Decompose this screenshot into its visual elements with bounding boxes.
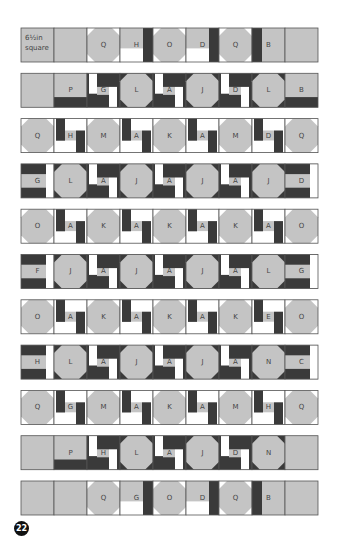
svg-text:Q: Q [101,41,107,49]
corner-size-label-line2: square [25,43,49,53]
quilt-block: M [87,119,120,153]
quilt-block: Q [21,390,54,424]
quilt-block: J [186,255,219,289]
quilt-block: B [285,73,318,107]
svg-text:A: A [68,313,73,321]
svg-text:Q: Q [35,403,41,411]
quilt-block: A [153,164,186,198]
quilt-block: A [186,390,219,424]
quilt-block: A [120,300,153,334]
quilt-block [21,436,54,470]
quilt-block: G [87,73,120,107]
svg-text:J: J [200,177,203,185]
quilt-block: Q [285,390,318,424]
svg-text:A: A [200,222,205,230]
quilt-block: K [153,390,186,424]
svg-text:J: J [200,267,203,275]
quilt-block: P [54,73,87,107]
svg-text:K: K [101,222,106,230]
svg-text:A: A [200,132,205,140]
quilt-block: A [120,390,153,424]
quilt-row: OAKAKAKAO [21,209,318,243]
quilt-block [54,28,87,62]
svg-text:J: J [134,267,137,275]
svg-text:Q: Q [101,494,107,502]
svg-text:K: K [101,313,106,321]
svg-text:G: G [299,267,304,275]
svg-text:Q: Q [233,41,239,49]
quilt-block: K [219,300,252,334]
quilt-diagram: QHODQBPGLAJDLBQHMAKAMDQGLAJAJAJDOAKAKAKA… [0,0,339,558]
quilt-block: A [153,345,186,379]
svg-text:A: A [200,313,205,321]
svg-text:D: D [299,177,304,185]
quilt-row: FJAJAJALG [21,255,318,289]
svg-text:A: A [233,358,238,366]
quilt-block: O [21,209,54,243]
svg-text:A: A [167,267,172,275]
quilt-block: A [87,345,120,379]
svg-text:J: J [200,449,203,457]
quilt-block: O [285,300,318,334]
svg-text:Q: Q [233,494,239,502]
quilt-block: O [21,300,54,334]
svg-text:B: B [299,86,304,94]
svg-text:K: K [233,313,238,321]
quilt-block: C [285,345,318,379]
quilt-block: K [153,300,186,334]
svg-text:D: D [266,132,271,140]
svg-text:H: H [134,41,139,49]
quilt-block: A [120,209,153,243]
quilt-block: J [252,164,285,198]
svg-text:D: D [233,86,238,94]
quilt-block: A [153,436,186,470]
svg-text:H: H [266,403,271,411]
quilt-block: M [219,390,252,424]
quilt-block: A [219,164,252,198]
quilt-block: Q [285,119,318,153]
quilt-block: A [219,255,252,289]
quilt-block: A [186,300,219,334]
quilt-block: J [54,255,87,289]
quilt-block: J [186,73,219,107]
svg-text:A: A [200,403,205,411]
quilt-block: N [252,436,285,470]
corner-size-label-line1: 6½in [25,33,49,43]
quilt-block [21,481,54,515]
svg-text:G: G [35,177,40,185]
quilt-block: J [120,345,153,379]
quilt-block: H [87,436,120,470]
quilt-block: J [120,164,153,198]
quilt-row: PGLAJDLB [21,73,318,107]
svg-text:E: E [266,313,270,321]
svg-text:A: A [167,86,172,94]
svg-text:Q: Q [299,403,305,411]
quilt-block [285,28,318,62]
svg-text:L: L [267,86,271,94]
quilt-row: QGMAKAMHQ [21,390,318,424]
quilt-block: H [54,119,87,153]
svg-text:A: A [134,132,139,140]
corner-size-label: 6½in square [25,33,49,53]
svg-text:D: D [200,41,205,49]
svg-text:H: H [68,132,73,140]
svg-text:G: G [68,403,73,411]
quilt-block: J [186,436,219,470]
quilt-block: K [153,209,186,243]
svg-text:K: K [233,222,238,230]
quilt-block: Q [219,481,252,515]
quilt-row: OAKAKAKEO [21,300,318,334]
quilt-block: L [252,255,285,289]
svg-text:O: O [299,313,305,321]
quilt-block: E [252,300,285,334]
svg-text:O: O [299,222,305,230]
quilt-block: A [186,209,219,243]
svg-text:A: A [101,177,106,185]
svg-text:J: J [200,86,203,94]
quilt-block: A [87,164,120,198]
svg-text:J: J [134,358,137,366]
quilt-block: J [120,255,153,289]
svg-text:L: L [69,358,73,366]
svg-text:A: A [266,222,271,230]
quilt-block: K [153,119,186,153]
